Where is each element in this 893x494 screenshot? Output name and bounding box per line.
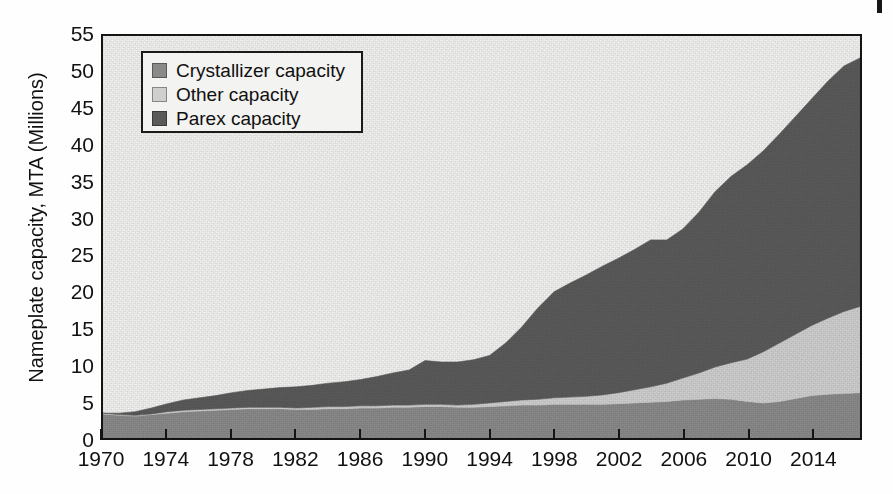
legend-label-crystallizer: Crystallizer capacity	[176, 61, 345, 80]
x-tick-mark-2014	[812, 429, 814, 440]
x-tick-label-2010: 2010	[714, 448, 784, 469]
page-edge-artifact	[877, 0, 882, 13]
x-tick-mark-1986	[359, 429, 361, 440]
x-tick-label-1998: 1998	[519, 448, 589, 469]
legend-item-other: Other capacity	[152, 82, 354, 106]
x-tick-mark-1974	[165, 429, 167, 440]
y-tick-label-55: 55	[48, 23, 94, 44]
x-tick-mark-2002	[618, 429, 620, 440]
legend-swatch-other-icon	[152, 87, 167, 102]
legend-swatch-crystallizer-icon	[152, 63, 167, 78]
x-tick-mark-1978	[230, 429, 232, 440]
x-tick-label-1974: 1974	[131, 448, 201, 469]
x-tick-mark-1998	[553, 429, 555, 440]
x-tick-mark-2010	[748, 429, 750, 440]
x-tick-label-2014: 2014	[778, 448, 848, 469]
x-tick-mark-1970	[100, 429, 102, 440]
chart-figure: Nameplate capacity, MTA (Millions) 05101…	[0, 0, 893, 494]
x-tick-label-2006: 2006	[649, 448, 719, 469]
y-tick-label-20: 20	[48, 281, 94, 302]
legend-swatch-parex-icon	[152, 111, 167, 126]
y-axis-tick-labels: 0510152025303540455055	[44, 0, 94, 494]
y-tick-label-5: 5	[48, 392, 94, 413]
x-tick-label-2002: 2002	[584, 448, 654, 469]
y-tick-label-45: 45	[48, 97, 94, 118]
y-tick-label-35: 35	[48, 171, 94, 192]
x-tick-mark-2006	[683, 429, 685, 440]
x-tick-mark-1994	[489, 429, 491, 440]
y-tick-label-30: 30	[48, 208, 94, 229]
y-tick-label-15: 15	[48, 318, 94, 339]
y-tick-label-25: 25	[48, 244, 94, 265]
y-tick-label-10: 10	[48, 355, 94, 376]
x-tick-mark-1990	[424, 429, 426, 440]
legend-label-parex: Parex capacity	[176, 109, 301, 128]
chart-legend: Crystallizer capacity Other capacity Par…	[141, 51, 363, 133]
x-tick-label-1990: 1990	[390, 448, 460, 469]
y-tick-label-50: 50	[48, 60, 94, 81]
x-tick-label-1982: 1982	[260, 448, 330, 469]
y-tick-label-40: 40	[48, 134, 94, 155]
x-tick-label-1994: 1994	[455, 448, 525, 469]
legend-item-parex: Parex capacity	[152, 106, 354, 130]
x-tick-label-1986: 1986	[325, 448, 395, 469]
legend-label-other: Other capacity	[176, 85, 299, 104]
legend-item-crystallizer: Crystallizer capacity	[152, 58, 354, 82]
x-tick-label-1978: 1978	[196, 448, 266, 469]
x-tick-label-1970: 1970	[66, 448, 136, 469]
x-tick-mark-1982	[294, 429, 296, 440]
